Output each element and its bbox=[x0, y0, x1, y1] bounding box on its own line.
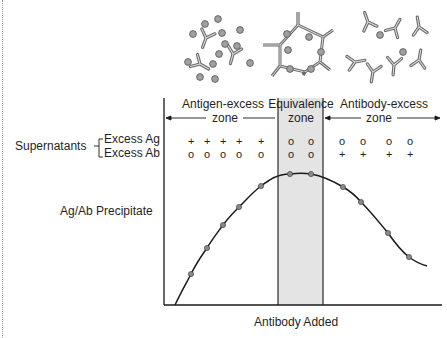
ab-symbol: + bbox=[386, 147, 392, 161]
ab-symbol: o bbox=[236, 147, 242, 161]
ab-symbol: o bbox=[220, 147, 226, 161]
supernatants-label: Supernatants bbox=[15, 139, 86, 153]
ab-symbol: + bbox=[407, 147, 413, 161]
ab-symbol: o bbox=[204, 147, 210, 161]
ag-symbol: + bbox=[188, 134, 194, 148]
zone-title-equivalence: Equivalence bbox=[268, 97, 334, 111]
ag-symbol: o bbox=[407, 134, 413, 148]
ag-symbol: + bbox=[220, 134, 226, 148]
zone-subtitle-antibody-excess: zone bbox=[361, 111, 397, 125]
x-axis-label: Antibody Added bbox=[254, 315, 338, 329]
ag-symbol: o bbox=[308, 134, 314, 148]
excess-ab-label: Excess Ab bbox=[104, 146, 160, 160]
precipitin-diagram bbox=[0, 0, 447, 338]
ag-symbol: o bbox=[386, 134, 392, 148]
ag-symbol: + bbox=[204, 134, 210, 148]
y-axis-label: Ag/Ab Precipitate bbox=[60, 204, 153, 218]
ab-symbol: o bbox=[288, 147, 294, 161]
ag-symbol: o bbox=[339, 134, 345, 148]
equivalence-lattice-illustration bbox=[263, 12, 333, 76]
ab-symbol: o bbox=[308, 147, 314, 161]
zone-subtitle-equivalence: zone bbox=[282, 111, 320, 125]
antibody-excess-illustration bbox=[347, 10, 428, 83]
ag-symbol: o bbox=[360, 134, 366, 148]
ag-symbol: + bbox=[236, 134, 242, 148]
ab-symbol: o bbox=[258, 147, 264, 161]
ag-symbol: + bbox=[258, 134, 264, 148]
ag-symbol: o bbox=[288, 134, 294, 148]
equivalence-band bbox=[278, 98, 323, 305]
supernatant-bracket bbox=[94, 139, 103, 157]
ab-symbol: + bbox=[360, 147, 366, 161]
ab-symbol: o bbox=[188, 147, 194, 161]
ab-symbol: + bbox=[339, 147, 345, 161]
zone-title-antibody-excess: Antibody-excess bbox=[328, 97, 440, 111]
excess-ag-label: Excess Ag bbox=[104, 132, 160, 146]
zone-title-antigen-excess: Antigen-excess bbox=[168, 97, 278, 111]
zone-subtitle-antigen-excess: zone bbox=[207, 111, 243, 125]
antigen-excess-illustration bbox=[185, 16, 254, 83]
